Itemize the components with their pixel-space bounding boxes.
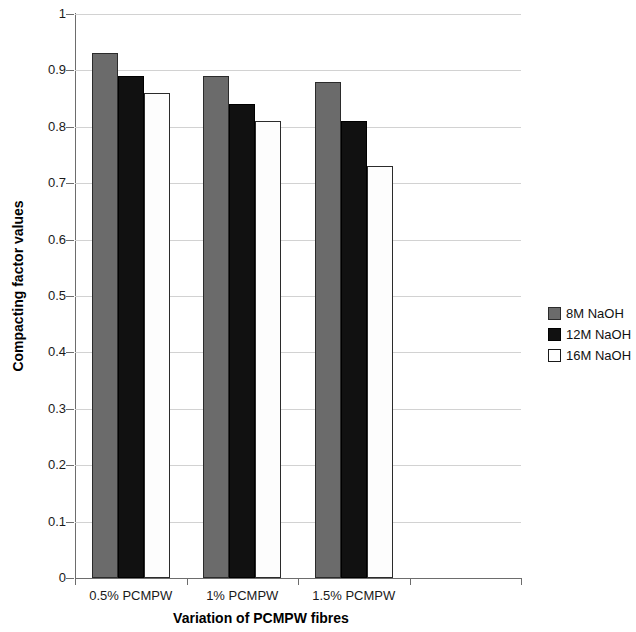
y-tick-label: 0.8: [20, 120, 66, 133]
legend-label: 16M NaOH: [566, 349, 631, 362]
x-category-label: 0.5% PCMPW: [71, 588, 191, 603]
y-axis-tick: [66, 240, 74, 241]
legend-item: 16M NaOH: [548, 345, 631, 366]
y-axis-tick: [66, 465, 74, 466]
legend-swatch-icon: [548, 328, 561, 341]
y-tick-label: 0.1: [20, 515, 66, 528]
y-axis-title: Compacting factor values: [10, 156, 26, 416]
y-tick-label: 1: [20, 7, 66, 20]
bar-12m-naoh-1: [229, 104, 255, 578]
y-axis-tick: [66, 127, 74, 128]
x-axis-tick: [521, 578, 522, 585]
legend-item: 8M NaOH: [548, 303, 631, 324]
legend-swatch-icon: [548, 307, 561, 320]
y-axis-tick: [66, 14, 74, 15]
y-axis-tick: [66, 522, 74, 523]
legend-label: 8M NaOH: [566, 307, 624, 320]
y-axis-tick: [66, 296, 74, 297]
bar-8m-naoh-1: [203, 76, 229, 578]
plot-area: [75, 14, 521, 578]
y-tick-label: 0.4: [20, 345, 66, 358]
y-tick-label: 0.2: [20, 458, 66, 471]
y-axis-tick: [66, 409, 74, 410]
x-axis-tick: [298, 578, 299, 585]
y-tick-label: 0.5: [20, 289, 66, 302]
legend-item: 12M NaOH: [548, 324, 631, 345]
x-axis-tick: [187, 578, 188, 585]
x-axis-title: Variation of PCMPW fibres: [0, 610, 522, 626]
y-tick-label: 0.9: [20, 63, 66, 76]
legend-swatch-icon: [548, 349, 561, 362]
y-tick-label: 0.6: [20, 233, 66, 246]
y-tick-label: 0.7: [20, 176, 66, 189]
gridline: [75, 14, 521, 15]
bar-12m-naoh-2: [341, 121, 367, 578]
bar-16m-naoh-2: [367, 166, 393, 578]
gridline: [75, 70, 521, 71]
legend-label: 12M NaOH: [566, 328, 631, 341]
x-axis-tick: [410, 578, 411, 585]
y-tick-label: 0: [20, 571, 66, 584]
bar-8m-naoh-2: [315, 82, 341, 578]
x-category-label: 1.5% PCMPW: [294, 588, 414, 603]
x-axis-tick: [75, 578, 76, 585]
bar-chart: 10.90.80.70.60.50.40.30.20.10 0.5% PCMPW…: [0, 0, 636, 632]
legend: 8M NaOH12M NaOH16M NaOH: [548, 303, 631, 366]
y-axis-tick: [66, 183, 74, 184]
y-axis-tick: [66, 578, 74, 579]
y-axis-tick: [66, 70, 74, 71]
bar-12m-naoh-0: [118, 76, 144, 578]
x-category-label: 1% PCMPW: [182, 588, 302, 603]
y-tick-label: 0.3: [20, 402, 66, 415]
bar-8m-naoh-0: [92, 53, 118, 578]
bar-16m-naoh-0: [144, 93, 170, 578]
bar-16m-naoh-1: [255, 121, 281, 578]
y-axis-tick: [66, 352, 74, 353]
